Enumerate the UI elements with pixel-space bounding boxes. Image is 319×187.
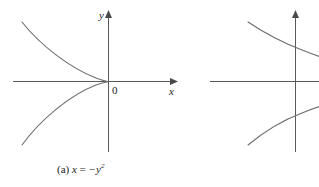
plot-b-canvas xyxy=(190,0,319,187)
caption-a: (a) x = −y2 xyxy=(57,163,104,175)
x-axis-label-a: x xyxy=(169,86,174,97)
caption-a-prefix: (a) xyxy=(57,163,69,175)
plot-panel-a: y x 0 (a) x = −y2 xyxy=(0,0,190,187)
plot-a-canvas xyxy=(0,0,190,187)
x-axis-arrow-a xyxy=(170,78,178,85)
caption-a-exponent: 2 xyxy=(101,162,105,170)
figure-container: y x 0 (a) x = −y2 y 0 (b) x = 1 − y xyxy=(0,0,319,187)
parabola-curve-b-lower xyxy=(248,106,319,145)
caption-a-equals: = xyxy=(80,163,86,175)
y-axis-arrow-a xyxy=(105,10,112,18)
parabola-curve-b-upper xyxy=(248,22,319,57)
plot-panel-b: y 0 (b) x = 1 − y2 xyxy=(190,0,319,187)
origin-label-a: 0 xyxy=(112,85,118,96)
caption-a-lhs: x xyxy=(72,163,77,175)
y-axis-label-a: y xyxy=(99,10,104,21)
y-axis-arrow-b xyxy=(292,10,299,18)
caption-a-rhs: −y xyxy=(89,163,101,175)
parabola-curve-a xyxy=(22,22,109,145)
